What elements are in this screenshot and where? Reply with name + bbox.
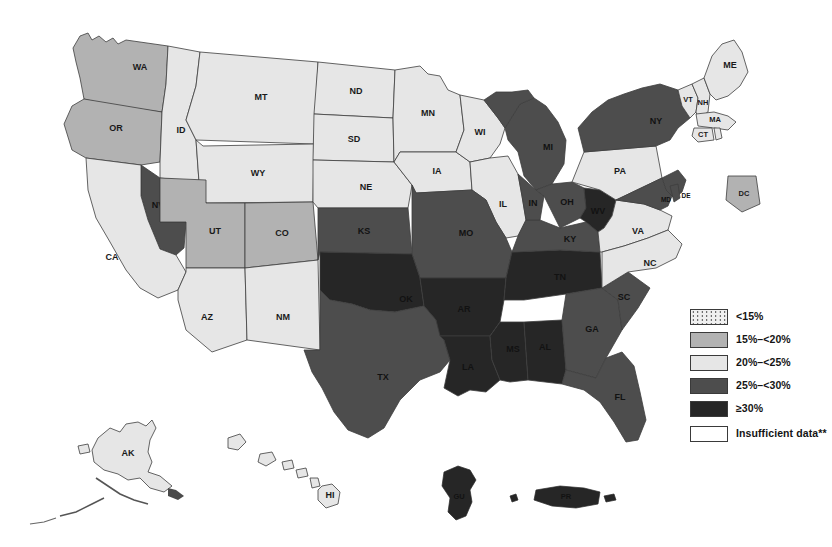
state-HI[interactable]: HI — [228, 434, 340, 508]
state-CT[interactable]: CT — [692, 128, 714, 142]
legend-swatch-lt15 — [690, 309, 728, 325]
state-TX[interactable]: TX — [304, 290, 450, 438]
legend-item-2: 20%–<25% — [690, 352, 830, 373]
state-CO[interactable]: CO — [245, 202, 318, 268]
legend-swatch-15-20 — [690, 332, 728, 348]
legend-label-lt15: <15% — [736, 311, 764, 322]
legend-label-ge30: ≥30% — [736, 403, 763, 414]
us-map-svg: WA OR ID MT WY NV CA — [0, 0, 832, 547]
legend-swatch-25-30 — [690, 378, 728, 394]
state-NY[interactable]: NY — [578, 84, 690, 152]
state-NE[interactable]: NE — [313, 160, 412, 208]
legend-item-5: Insufficient data** — [690, 423, 830, 444]
legend-swatch-20-25 — [690, 355, 728, 371]
state-ND[interactable]: ND — [314, 62, 395, 118]
state-AZ[interactable]: AZ — [178, 268, 247, 352]
prevalence-legend: <15% 15%–<20% 20%–<25% 25%–<30% ≥30% Ins… — [690, 306, 830, 446]
state-DC[interactable]: DC — [726, 176, 760, 212]
territory-PR[interactable]: PR — [510, 486, 616, 508]
state-AK[interactable]: AK — [30, 420, 184, 524]
legend-label-25-30: 25%–<30% — [736, 380, 791, 391]
state-ME[interactable]: ME — [704, 40, 748, 100]
legend-item-1: 15%–<20% — [690, 329, 830, 350]
legend-item-3: 25%–<30% — [690, 375, 830, 396]
state-AL[interactable]: AL — [524, 320, 566, 384]
state-label-DE: DE — [681, 192, 691, 199]
state-MN[interactable]: MN — [393, 66, 464, 162]
state-NM[interactable]: NM — [245, 260, 320, 350]
legend-swatch-ge30 — [690, 401, 728, 417]
legend-item-4: ≥30% — [690, 398, 830, 419]
legend-label-15-20: 15%–<20% — [736, 334, 791, 345]
state-MA[interactable]: MA — [696, 112, 736, 130]
legend-label-insufficient: Insufficient data** — [736, 428, 827, 439]
state-WY[interactable]: WY — [196, 140, 314, 203]
legend-item-0: <15% — [690, 306, 830, 327]
state-SD[interactable]: SD — [313, 114, 394, 162]
choropleth-map-figure: WA OR ID MT WY NV CA — [0, 0, 832, 547]
territory-GU[interactable]: GU — [442, 466, 476, 520]
state-MT[interactable]: MT — [186, 52, 318, 144]
legend-label-20-25: 20%–<25% — [736, 357, 791, 368]
legend-swatch-insufficient — [690, 426, 728, 442]
state-KY[interactable]: KY — [512, 220, 600, 252]
state-RI[interactable] — [714, 128, 722, 140]
